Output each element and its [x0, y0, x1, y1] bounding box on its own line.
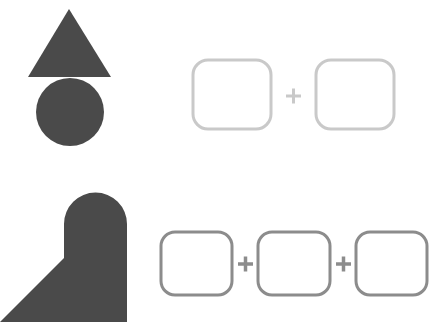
top-answer-row: [193, 60, 394, 129]
plus-icon: [286, 89, 301, 104]
right-triangle-shape: [0, 258, 64, 322]
triangle-shape: [28, 9, 111, 77]
answer-box[interactable]: [258, 232, 330, 295]
top-composite-shape: [28, 9, 111, 146]
plus-icon: [336, 257, 351, 272]
answer-box[interactable]: [161, 232, 232, 295]
circle-shape: [36, 78, 104, 146]
plus-icon: [238, 257, 253, 272]
shape-decomposition-diagram: [0, 0, 434, 330]
answer-box[interactable]: [193, 60, 271, 129]
bottom-answer-row: [161, 232, 427, 295]
answer-box[interactable]: [356, 232, 427, 295]
arched-rectangle-shape: [64, 193, 127, 322]
bottom-composite-shape: [0, 193, 127, 322]
answer-box[interactable]: [316, 60, 394, 129]
